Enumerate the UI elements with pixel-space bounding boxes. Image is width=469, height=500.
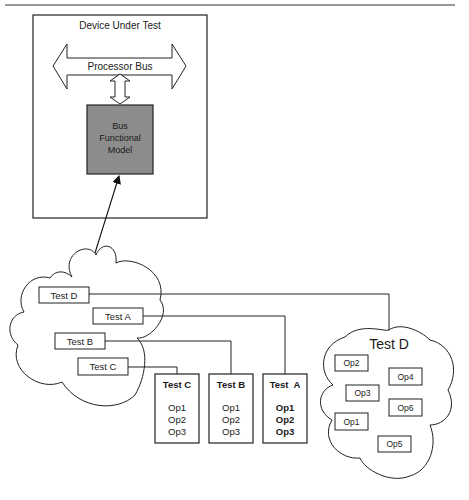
test-a-label: Test A (105, 311, 132, 322)
device-under-test: Device Under Test Processor Bus Bus Func… (33, 15, 207, 218)
test-c-op2: Op2 (168, 414, 186, 425)
test-a-op3: Op3 (276, 426, 294, 437)
diagram-canvas: Device Under Test Processor Bus Bus Func… (0, 0, 469, 500)
test-c-label: Test C (90, 361, 117, 372)
bfm-line-3: Model (108, 145, 133, 155)
test-b-label: Test B (67, 336, 93, 347)
op3-label: Op3 (354, 388, 370, 398)
op4-label: Op4 (397, 372, 413, 382)
test-d-label: Test D (51, 290, 78, 301)
op6-label: Op6 (397, 403, 413, 413)
dut-title: Device Under Test (79, 20, 161, 31)
test-a-detail: Test A Op1 Op2 Op3 (263, 374, 307, 443)
test-b-op3: Op3 (222, 426, 240, 437)
test-d-cloud-title: Test D (369, 336, 409, 352)
test-a-op1: Op1 (276, 402, 295, 413)
test-c-detail-title: Test C (163, 379, 191, 390)
test-a-connector (143, 316, 285, 374)
test-a-op2: Op2 (276, 414, 294, 425)
bfm-line-2: Functional (99, 133, 141, 143)
test-b-op1: Op1 (222, 402, 240, 413)
test-b-detail: Test B Op1 Op2 Op3 (209, 374, 253, 443)
test-c-op3: Op3 (168, 426, 186, 437)
op5-label: Op5 (386, 439, 402, 449)
test-b-op2: Op2 (222, 414, 240, 425)
test-a-detail-title: Test A (270, 379, 301, 390)
op2-label: Op2 (343, 358, 359, 368)
test-c-detail: Test C Op1 Op2 Op3 (155, 374, 199, 443)
test-b-detail-title: Test B (217, 379, 245, 390)
bfm-line-1: Bus (112, 121, 128, 131)
processor-bus-label: Processor Bus (87, 61, 152, 72)
op1-label: Op1 (343, 417, 359, 427)
test-c-op1: Op1 (168, 402, 186, 413)
left-test-cloud (10, 246, 164, 406)
